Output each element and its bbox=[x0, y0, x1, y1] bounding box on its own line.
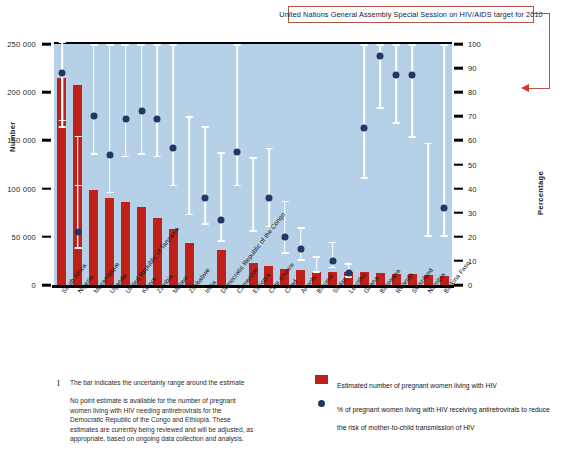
chart-legend: Estimated number of pregnant women livin… bbox=[315, 374, 555, 440]
right-tick-label-20: 20 bbox=[468, 232, 476, 241]
bar-democratic-republic-of-the-congo bbox=[217, 250, 226, 285]
percentage-point-united-republic-of-tanzania bbox=[122, 115, 129, 122]
right-tick-label-50: 50 bbox=[468, 160, 476, 169]
percentage-point-c-te-d-ivoire bbox=[265, 195, 272, 202]
footnote-uncertainty: The bar indicates the uncertainty range … bbox=[70, 378, 260, 387]
percentage-uncertainty-whisker bbox=[316, 256, 318, 273]
right-tick-mark-100 bbox=[454, 43, 463, 46]
bar-mozambique bbox=[89, 190, 98, 285]
percentage-uncertainty-whisker bbox=[411, 44, 413, 138]
left-tick-mark-250000 bbox=[42, 43, 51, 46]
percentage-point-south-africa bbox=[58, 69, 65, 76]
left-tick-label-200000: 200 000 bbox=[7, 88, 36, 97]
percentage-point-zambia bbox=[154, 115, 161, 122]
right-tick-mark-20 bbox=[454, 236, 463, 239]
right-tick-label-60: 60 bbox=[468, 136, 476, 145]
right-tick-mark-70 bbox=[454, 115, 463, 118]
left-tick-mark-150000 bbox=[42, 139, 51, 142]
percentage-uncertainty-whisker bbox=[109, 44, 111, 193]
percentage-uncertainty-whisker bbox=[204, 126, 206, 225]
percentage-uncertainty-whisker bbox=[189, 116, 191, 215]
left-tick-label-250000: 250 000 bbox=[7, 40, 36, 49]
right-tick-mark-10 bbox=[454, 260, 463, 263]
percentage-point-angola bbox=[297, 245, 304, 252]
right-tick-label-0: 0 bbox=[468, 281, 472, 290]
left-tick-mark-0 bbox=[42, 284, 51, 287]
right-tick-label-70: 70 bbox=[468, 112, 476, 121]
percentage-point-kenya bbox=[138, 108, 145, 115]
left-axis-title: Number bbox=[8, 122, 17, 153]
legend-dot-swatch-icon bbox=[318, 400, 325, 407]
percentage-point-rwanda bbox=[393, 72, 400, 79]
percentage-uncertainty-whisker bbox=[284, 201, 286, 254]
right-tick-label-80: 80 bbox=[468, 88, 476, 97]
percentage-point-burkina-faso bbox=[441, 204, 448, 211]
percentage-point-ghana bbox=[361, 125, 368, 132]
percentage-point-sudan bbox=[329, 257, 336, 264]
percentage-point-india bbox=[202, 195, 209, 202]
percentage-uncertainty-whisker bbox=[61, 42, 63, 122]
legend-item-dots: % of pregnant women living with HIV rece… bbox=[315, 398, 555, 434]
left-axis: 250 000200 000150 000100 00050 0000 bbox=[0, 0, 52, 458]
percentage-point-democratic-republic-of-the-congo bbox=[218, 216, 225, 223]
legend-label-dots: % of pregnant women living with HIV rece… bbox=[337, 406, 550, 431]
percentage-uncertainty-whisker bbox=[300, 227, 302, 261]
uncertainty-bar-icon: I bbox=[57, 378, 60, 388]
right-tick-mark-30 bbox=[454, 211, 463, 214]
percentage-uncertainty-whisker bbox=[125, 44, 127, 157]
percentage-point-chad bbox=[281, 233, 288, 240]
percentage-point-mozambique bbox=[90, 113, 97, 120]
percentage-uncertainty-whisker bbox=[395, 44, 397, 124]
right-tick-label-90: 90 bbox=[468, 64, 476, 73]
right-tick-mark-60 bbox=[454, 139, 463, 142]
percentage-uncertainty-whisker bbox=[141, 44, 143, 155]
left-tick-label-50000: 50 000 bbox=[12, 232, 36, 241]
percentage-point-nigeria bbox=[74, 228, 81, 235]
percentage-uncertainty-whisker bbox=[173, 44, 175, 186]
right-tick-mark-90 bbox=[454, 67, 463, 70]
legend-bar-swatch-icon bbox=[315, 375, 328, 384]
ungass-target-arrow-icon bbox=[521, 84, 529, 92]
percentage-point-swaziland bbox=[409, 72, 416, 79]
right-axis-title: Percentage bbox=[536, 171, 545, 215]
percentage-point-cameroon bbox=[234, 149, 241, 156]
percentage-uncertainty-whisker bbox=[157, 44, 159, 157]
legend-label-bars: Estimated number of pregnant women livin… bbox=[337, 382, 497, 389]
percentage-uncertainty-whisker bbox=[268, 148, 270, 228]
percentage-uncertainty-whisker bbox=[252, 157, 254, 232]
right-tick-label-40: 40 bbox=[468, 184, 476, 193]
ungass-leader-line-vertical bbox=[549, 13, 550, 89]
percentage-point-lesotho bbox=[345, 269, 352, 276]
right-tick-label-30: 30 bbox=[468, 208, 476, 217]
left-tick-mark-200000 bbox=[42, 91, 51, 94]
percentage-uncertainty-whisker bbox=[236, 44, 238, 186]
left-tick-label-0: 0 bbox=[32, 281, 36, 290]
right-tick-mark-50 bbox=[454, 163, 463, 166]
footnote-no-point-estimate: No point estimate is available for the n… bbox=[70, 396, 255, 444]
ungass-leader-line-to-arrow bbox=[529, 88, 550, 89]
percentage-uncertainty-whisker bbox=[220, 152, 222, 241]
percentage-uncertainty-whisker bbox=[364, 44, 366, 179]
legend-item-bars: Estimated number of pregnant women livin… bbox=[315, 374, 555, 392]
right-tick-mark-80 bbox=[454, 91, 463, 94]
left-tick-mark-50000 bbox=[42, 236, 51, 239]
right-tick-label-100: 100 bbox=[468, 40, 481, 49]
percentage-point-uganda bbox=[106, 151, 113, 158]
percentage-uncertainty-whisker bbox=[427, 143, 429, 237]
left-tick-label-100000: 100 000 bbox=[7, 184, 36, 193]
percentage-point-malawi bbox=[170, 144, 177, 151]
left-tick-mark-100000 bbox=[42, 187, 51, 190]
ungass-leader-line-horizontal bbox=[532, 13, 550, 14]
percentage-uncertainty-whisker bbox=[93, 44, 95, 155]
percentage-point-botswana bbox=[377, 53, 384, 60]
right-tick-mark-40 bbox=[454, 187, 463, 190]
